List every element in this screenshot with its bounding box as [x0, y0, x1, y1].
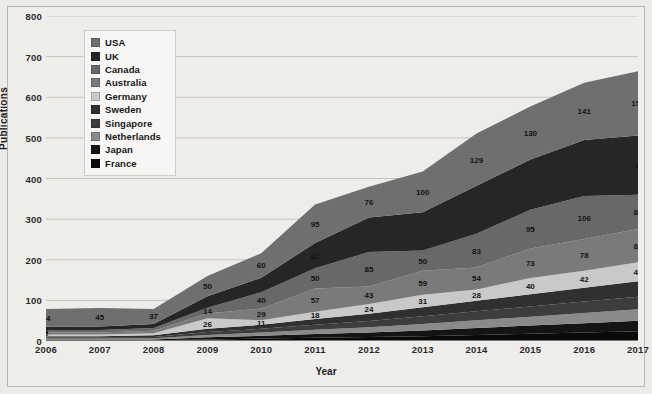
y-axis-tick: 800: [2, 11, 42, 22]
legend-swatch-icon: [91, 159, 100, 168]
legend-swatch-icon: [91, 92, 100, 101]
legend-item-sweden[interactable]: Sweden: [91, 103, 169, 116]
y-axis-tick: 100: [2, 295, 42, 306]
legend-item-label: Germany: [105, 91, 147, 102]
x-axis-tick: 2014: [466, 344, 488, 355]
legend-swatch-icon: [91, 38, 100, 47]
y-axis-tick: 300: [2, 214, 42, 225]
legend-item-singapore[interactable]: Singapore: [91, 116, 169, 129]
x-axis: 2006200720082009201020112012201320142015…: [46, 344, 638, 362]
x-axis-tick: 2006: [35, 344, 57, 355]
legend-item-label: Singapore: [105, 118, 152, 129]
x-axis-tick: 2015: [519, 344, 541, 355]
y-axis: 0100200300400500600700800: [0, 16, 42, 341]
y-axis-tick: 200: [2, 254, 42, 265]
y-axis-title: Publications: [0, 87, 9, 150]
legend-item-label: Netherlands: [105, 131, 161, 142]
x-axis-title: Year: [0, 366, 652, 377]
legend-item-label: France: [105, 158, 137, 169]
x-axis-tick: 2008: [143, 344, 165, 355]
legend-swatch-icon: [91, 65, 100, 74]
legend-swatch-icon: [91, 119, 100, 128]
x-axis-tick: 2016: [573, 344, 595, 355]
legend-item-label: Australia: [105, 77, 147, 88]
legend-swatch-icon: [91, 132, 100, 141]
x-axis-tick: 2017: [627, 344, 649, 355]
legend-swatch-icon: [91, 52, 100, 61]
legend-swatch-icon: [91, 78, 100, 87]
x-axis-tick: 2007: [89, 344, 111, 355]
legend-item-uk[interactable]: UK: [91, 49, 169, 62]
legend-item-label: UK: [105, 51, 119, 62]
legend-item-label: Japan: [105, 144, 133, 155]
legend-item-label: Sweden: [105, 104, 142, 115]
legend-item-netherlands[interactable]: Netherlands: [91, 130, 169, 143]
legend-item-usa[interactable]: USA: [91, 36, 169, 49]
x-axis-tick: 2010: [250, 344, 272, 355]
stacked-area-chart: 0100200300400500600700800 Publications 4…: [0, 0, 652, 394]
x-axis-tick: 2012: [358, 344, 380, 355]
y-axis-tick: 700: [2, 51, 42, 62]
y-axis-tick: 400: [2, 173, 42, 184]
legend-item-label: Canada: [105, 64, 140, 75]
legend: USAUKCanadaAustraliaGermanySwedenSingapo…: [84, 30, 176, 176]
legend-item-germany[interactable]: Germany: [91, 90, 169, 103]
x-axis-tick: 2009: [196, 344, 218, 355]
legend-swatch-icon: [91, 105, 100, 114]
legend-item-label: USA: [105, 37, 125, 48]
legend-item-australia[interactable]: Australia: [91, 76, 169, 89]
legend-item-france[interactable]: France: [91, 157, 169, 170]
x-axis-tick: 2011: [304, 344, 325, 355]
x-axis-tick: 2013: [412, 344, 434, 355]
legend-item-japan[interactable]: Japan: [91, 143, 169, 156]
legend-item-canada[interactable]: Canada: [91, 63, 169, 76]
legend-swatch-icon: [91, 145, 100, 154]
